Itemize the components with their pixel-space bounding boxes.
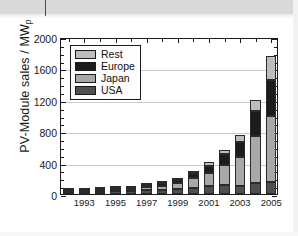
y-axis-tick-label: 400 [39, 159, 57, 171]
bar-segment-rest [63, 188, 74, 190]
legend-label-rest: Rest [101, 49, 123, 60]
y-axis-tick-label: 2000 [34, 33, 57, 45]
bar-segment-europe [157, 183, 168, 186]
bar-segment-rest [110, 186, 121, 188]
bar-segment-japan [219, 165, 230, 185]
bar-segment-rest [79, 188, 90, 190]
bar-segment-rest [188, 171, 199, 173]
legend-swatch-japan [75, 74, 96, 83]
bar-segment-usa [141, 190, 152, 194]
x-axis-tick-label: 1993 [74, 197, 95, 208]
bar-segment-usa [172, 189, 183, 194]
bar-1997 [141, 184, 152, 194]
bar-1992 [63, 189, 74, 194]
bar-2000 [188, 171, 199, 194]
legend-item-europe: Europe [75, 61, 135, 72]
legend-swatch-usa [75, 86, 96, 95]
scan-artifact-tick [45, 0, 46, 16]
bar-1995 [110, 188, 121, 194]
bar-segment-japan [157, 186, 168, 190]
bar-segment-japan [188, 178, 199, 188]
bar-1998 [157, 182, 168, 194]
page-edge-bottom [0, 232, 298, 236]
bar-2003 [235, 135, 246, 194]
bar-segment-europe [266, 80, 277, 116]
bar-2004 [250, 100, 261, 194]
bar-segment-europe [141, 185, 152, 187]
y-axis-tick [61, 196, 66, 197]
bar-segment-japan [235, 157, 246, 186]
x-axis-tick-label: 1999 [167, 197, 188, 208]
bar-segment-usa [219, 185, 230, 194]
legend-label-usa: USA [101, 85, 123, 96]
bar-segment-usa [250, 183, 261, 194]
legend-label-europe: Europe [101, 61, 135, 72]
chart-figure: PV-Module sales / MWp 040080012001600200… [0, 19, 293, 232]
bar-segment-japan [266, 116, 277, 182]
y-axis-label-subscript: p [23, 19, 33, 24]
plot-area: 0400800120016002000 19931995199719992001… [60, 38, 278, 195]
y-axis-tick-label: 1600 [34, 64, 57, 76]
legend-label-japan: Japan [101, 73, 130, 84]
y-axis-tick-label: 800 [39, 127, 57, 139]
bar-segment-rest [235, 135, 246, 142]
bar-1993 [79, 189, 90, 194]
bar-segment-usa [110, 191, 121, 194]
legend-swatch-europe [75, 62, 96, 71]
bar-2002 [219, 150, 230, 194]
y-axis-label-text: PV-Module sales / MW [18, 24, 32, 152]
bar-segment-usa [95, 192, 106, 194]
bar-segment-rest [141, 183, 152, 185]
legend-swatch-rest [75, 50, 96, 59]
bar-segment-rest [172, 178, 183, 180]
bar-segment-rest [219, 150, 230, 154]
bar-segment-rest [266, 56, 277, 80]
bar-1994 [95, 189, 106, 194]
y-axis-tick-label: 0 [51, 190, 57, 202]
bar-1996 [126, 187, 137, 194]
bar-segment-rest [157, 181, 168, 183]
bar-segment-rest [250, 100, 261, 111]
bar-segment-japan [250, 136, 261, 183]
bar-segment-europe [172, 180, 183, 183]
bar-segment-rest [126, 186, 137, 188]
legend-item-japan: Japan [75, 73, 135, 84]
bar-segment-europe [188, 173, 199, 178]
bar-segment-europe [219, 154, 230, 165]
bar-segment-europe [250, 111, 261, 136]
bar-segment-usa [266, 182, 277, 194]
bar-2005 [266, 56, 277, 194]
y-axis-label: PV-Module sales / MWp [18, 1, 32, 171]
bar-segment-rest [204, 162, 215, 166]
bar-segment-japan [141, 187, 152, 190]
legend-item-usa: USA [75, 85, 135, 96]
page-root: PV-Module sales / MWp 040080012001600200… [0, 0, 298, 236]
bar-segment-usa [126, 191, 137, 194]
bar-segment-usa [188, 188, 199, 194]
x-axis-tick-label: 1995 [105, 197, 126, 208]
bar-segment-japan [204, 173, 215, 186]
bar-segment-usa [204, 186, 215, 194]
legend-item-rest: Rest [75, 49, 135, 60]
x-axis-tick-label: 2005 [261, 197, 282, 208]
page-edge-right [293, 0, 298, 236]
bar-segment-japan [172, 183, 183, 189]
y-axis-tick-label: 1200 [34, 96, 57, 108]
bar-segment-usa [235, 186, 246, 194]
bar-segment-rest [95, 187, 106, 189]
bar-segment-europe [235, 142, 246, 157]
bar-segment-usa [157, 190, 168, 194]
bar-1999 [172, 178, 183, 194]
x-axis-tick-label: 2003 [229, 197, 250, 208]
x-axis-tick-label: 2001 [198, 197, 219, 208]
bar-segment-europe [204, 166, 215, 173]
chart-legend: RestEuropeJapanUSA [70, 45, 141, 100]
bar-2001 [204, 162, 215, 194]
x-axis-tick-label: 1997 [136, 197, 157, 208]
